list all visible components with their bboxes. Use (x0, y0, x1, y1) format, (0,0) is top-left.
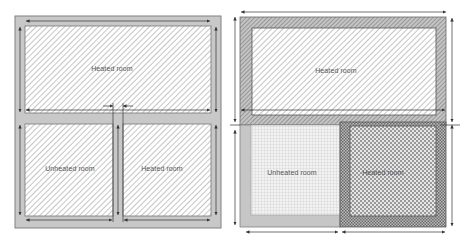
label-heated-room-top-left: Heated room (91, 65, 133, 72)
label-heated-room-bottom-right: Heated room (362, 169, 404, 176)
label-heated-room-bottom-left: Heated room (141, 165, 183, 172)
left-floor-plan (15, 16, 221, 228)
diagram-canvas (0, 0, 468, 244)
label-unheated-room-right: Unheated room (267, 169, 317, 176)
right-floor-plan (230, 12, 460, 232)
label-heated-room-top-right: Heated room (315, 67, 357, 74)
label-unheated-room-left: Unheated room (45, 165, 95, 172)
